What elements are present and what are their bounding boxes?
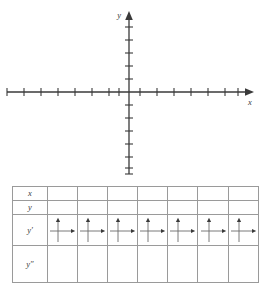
row-label-y-double-prime-text: y″ bbox=[26, 260, 33, 269]
y-axis-arrowhead bbox=[125, 11, 133, 20]
x-axis-arrowhead bbox=[245, 88, 254, 96]
row-label-y-text: y bbox=[28, 203, 32, 212]
table-row: y′ bbox=[13, 215, 259, 246]
cell-x-1[interactable] bbox=[48, 187, 78, 201]
mini-axes-up-right-arrow-icon bbox=[109, 217, 136, 243]
cell-y-prime-1[interactable] bbox=[48, 215, 78, 246]
cell-y-3[interactable] bbox=[108, 201, 138, 215]
cell-y-prime-3[interactable] bbox=[108, 215, 138, 246]
cell-y-double-prime-3[interactable] bbox=[108, 246, 138, 283]
row-label-y-prime-text: y′ bbox=[27, 226, 33, 235]
cell-y-double-prime-4[interactable] bbox=[138, 246, 168, 283]
cell-y-double-prime-1[interactable] bbox=[48, 246, 78, 283]
row-label-x-text: x bbox=[28, 189, 32, 198]
cell-y-double-prime-2[interactable] bbox=[78, 246, 108, 283]
cell-y-1[interactable] bbox=[48, 201, 78, 215]
mini-axes-up-right-arrow-icon bbox=[200, 217, 227, 243]
table-panel: x y bbox=[12, 186, 250, 283]
cell-x-2[interactable] bbox=[78, 187, 108, 201]
cell-y-4[interactable] bbox=[138, 201, 168, 215]
row-label-y: y bbox=[13, 201, 48, 215]
sign-analysis-table: x y bbox=[12, 186, 259, 283]
cell-x-3[interactable] bbox=[108, 187, 138, 201]
cell-y-2[interactable] bbox=[78, 201, 108, 215]
y-axis-label: y bbox=[116, 10, 121, 20]
cell-x-7[interactable] bbox=[228, 187, 258, 201]
table-row: y bbox=[13, 201, 259, 215]
cell-x-4[interactable] bbox=[138, 187, 168, 201]
cell-y-7[interactable] bbox=[228, 201, 258, 215]
cell-y-double-prime-7[interactable] bbox=[228, 246, 258, 283]
cell-x-6[interactable] bbox=[198, 187, 228, 201]
row-label-y-prime: y′ bbox=[13, 215, 48, 246]
cell-y-5[interactable] bbox=[168, 201, 198, 215]
cell-y-prime-6[interactable] bbox=[198, 215, 228, 246]
table-row: y″ bbox=[13, 246, 259, 283]
mini-axes-up-right-arrow-icon bbox=[79, 217, 106, 243]
cell-y-double-prime-5[interactable] bbox=[168, 246, 198, 283]
cell-y-prime-5[interactable] bbox=[168, 215, 198, 246]
cell-y-prime-7[interactable] bbox=[228, 215, 258, 246]
mini-axes-up-right-arrow-icon bbox=[139, 217, 166, 243]
row-label-y-double-prime: y″ bbox=[13, 246, 48, 283]
mini-axes-up-right-arrow-icon bbox=[230, 217, 257, 243]
cell-y-prime-4[interactable] bbox=[138, 215, 168, 246]
cell-y-6[interactable] bbox=[198, 201, 228, 215]
mini-axes-up-right-arrow-icon bbox=[49, 217, 76, 243]
cell-x-5[interactable] bbox=[168, 187, 198, 201]
coordinate-plane-svg: y x bbox=[0, 0, 263, 180]
row-label-x: x bbox=[13, 187, 48, 201]
graph-panel: y x bbox=[0, 0, 263, 180]
cell-y-double-prime-6[interactable] bbox=[198, 246, 228, 283]
cell-y-prime-2[interactable] bbox=[78, 215, 108, 246]
table-row: x bbox=[13, 187, 259, 201]
mini-axes-up-right-arrow-icon bbox=[169, 217, 196, 243]
x-axis-label: x bbox=[247, 97, 252, 107]
